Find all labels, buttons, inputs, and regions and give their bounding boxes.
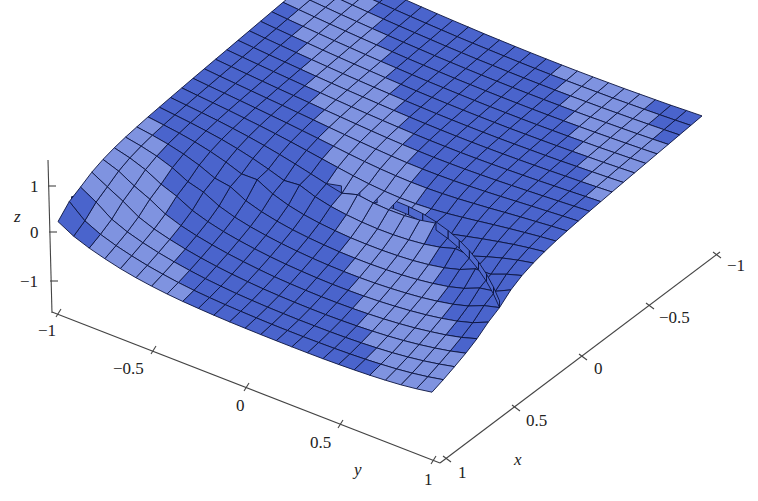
y-tick-label: 0.5 — [310, 433, 331, 452]
x-axis-title: x — [513, 450, 522, 469]
y-axis-title: y — [352, 460, 362, 479]
x-tick-label: −1 — [727, 256, 745, 275]
surface-plot: 1 0 −1 z −1 −0.5 0 0.5 1 y 1 0.5 0 −0.5 … — [0, 0, 758, 501]
x-tick-label: −0.5 — [659, 308, 690, 327]
x-tick-label: 1 — [458, 463, 467, 482]
z-tick-label: −1 — [20, 272, 38, 291]
z-axis-title: z — [13, 207, 21, 226]
surface-mesh — [58, 0, 702, 392]
x-tick-label: 0.5 — [526, 411, 547, 430]
y-tick-label: 0 — [236, 396, 245, 415]
z-tick-label: 1 — [30, 177, 39, 196]
z-tick-label: 0 — [30, 223, 39, 242]
z-axis: 1 0 −1 z — [13, 160, 58, 313]
y-tick-label: −1 — [38, 321, 56, 340]
x-tick-label: 0 — [594, 359, 603, 378]
y-tick-label: 1 — [424, 470, 433, 489]
y-tick-label: −0.5 — [113, 359, 144, 378]
